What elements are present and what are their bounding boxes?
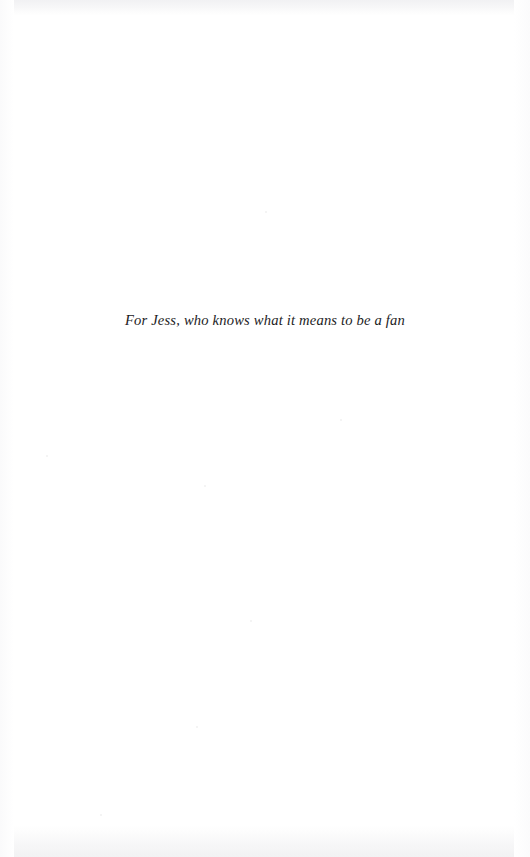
scan-speck xyxy=(204,485,206,487)
scan-speck xyxy=(100,814,102,816)
scan-edge-shading-bottom xyxy=(0,825,530,857)
book-page: For Jess, who knows what it means to be … xyxy=(0,0,530,857)
scan-speck xyxy=(196,726,198,728)
scan-speck xyxy=(340,419,342,421)
scan-edge-shading-right xyxy=(514,0,530,857)
scan-edge-shading-top xyxy=(0,0,530,16)
scan-speck xyxy=(265,211,267,213)
dedication-text: For Jess, who knows what it means to be … xyxy=(125,311,405,330)
dedication-block: For Jess, who knows what it means to be … xyxy=(0,311,530,330)
scan-edge-shading-left xyxy=(0,0,14,857)
scan-speck xyxy=(250,620,252,622)
scan-speck xyxy=(46,455,48,457)
